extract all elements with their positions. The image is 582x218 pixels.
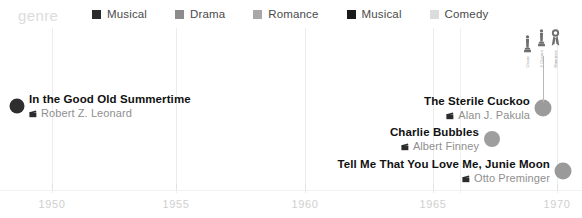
axis-tick-label: 1970 [544,198,571,210]
legend: genre MusicalDramaRomanceMusicalComedy [0,4,582,28]
legend-item-label: Musical [107,8,147,20]
award-label: Nominee [553,50,558,67]
film-director-row: Otto Preminger [337,172,550,185]
award-oscar-statuette[interactable]: Oscar [522,34,533,68]
axis-tick-label: 1955 [163,198,190,210]
legend-item-romance-2[interactable]: Romance [253,8,318,20]
legend-title: genre [18,7,58,24]
film-dot-the-sterile-cuckoo[interactable] [535,100,552,117]
legend-item-comedy-4[interactable]: Comedy [430,8,489,20]
film-title: The Sterile Cuckoo [424,94,530,108]
legend-swatch-icon [347,10,356,19]
time-axis: 19501955196019651970 [0,190,582,218]
clapperboard-icon [462,175,470,183]
axis-tick-label: 1950 [39,198,66,210]
film-director-row: Alan J. Pakula [424,109,530,122]
legend-item-label: Musical [362,8,402,20]
film-label-tell-me-that-you-love-me-junie-moon[interactable]: Tell Me That You Love Me, Junie MoonOtto… [337,157,550,185]
film-director-row: Albert Finney [390,140,479,153]
award-oscar-statuette[interactable]: 2 Oscars [536,28,547,68]
legend-item-drama-1[interactable]: Drama [175,8,225,20]
legend-item-musical-3[interactable]: Musical [347,8,402,20]
film-dot-in-the-good-old-summertime[interactable] [10,99,25,114]
legend-item-label: Romance [268,8,318,20]
award-label: 2 Oscars [539,50,544,68]
axis-tick-1965 [433,184,434,190]
film-label-the-sterile-cuckoo[interactable]: The Sterile CuckooAlan J. Pakula [424,94,530,122]
axis-tick-1970 [557,184,558,190]
legend-item-musical-0[interactable]: Musical [92,8,147,20]
axis-tick-1955 [176,184,177,190]
film-dot-tell-me-that-you-love-me-junie-moon[interactable] [555,163,572,180]
legend-swatch-icon [92,10,101,19]
film-director: Albert Finney [413,140,479,153]
oscar-statuette-icon [536,28,547,48]
clapperboard-icon [446,112,454,120]
axis-tick-1950 [52,184,53,190]
genre-timeline-chart: genre MusicalDramaRomanceMusicalComedy I… [0,0,582,218]
film-title: In the Good Old Summertime [29,92,191,106]
clapperboard-icon [29,110,37,118]
awards-group: Oscar2 OscarsNominee [522,28,561,68]
legend-item-label: Comedy [445,8,489,20]
film-dot-charlie-bubbles[interactable] [484,131,500,147]
film-director: Otto Preminger [474,172,550,185]
legend-swatch-icon [253,10,262,19]
film-label-in-the-good-old-summertime[interactable]: In the Good Old SummertimeRobert Z. Leon… [29,92,191,120]
legend-swatch-icon [175,10,184,19]
axis-line [0,190,582,191]
film-director-row: Robert Z. Leonard [29,107,191,120]
award-award-ribbon[interactable]: Nominee [550,28,561,67]
axis-tick-label: 1965 [420,198,447,210]
award-label: Oscar [525,56,530,68]
award-ribbon-icon [550,28,561,48]
clapperboard-icon [401,143,409,151]
oscar-statuette-icon [522,34,533,54]
axis-tick-1960 [305,184,306,190]
legend-swatch-icon [430,10,439,19]
gridline-2 [305,28,306,193]
film-title: Charlie Bubbles [390,125,479,139]
film-director: Robert Z. Leonard [41,107,132,120]
film-title: Tell Me That You Love Me, Junie Moon [337,157,550,171]
film-director: Alan J. Pakula [458,109,530,122]
axis-tick-label: 1960 [292,198,319,210]
legend-items: MusicalDramaRomanceMusicalComedy [92,8,488,20]
film-label-charlie-bubbles[interactable]: Charlie BubblesAlbert Finney [390,125,479,153]
legend-item-label: Drama [190,8,225,20]
